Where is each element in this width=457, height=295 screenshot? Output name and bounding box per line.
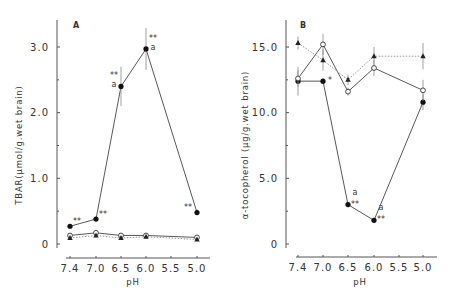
significance-letter: a xyxy=(112,80,117,89)
panel-b: 05.010.015.07.47.06.56.05.55.0pHα-tocoph… xyxy=(240,20,437,287)
x-axis-label: pH xyxy=(353,277,366,287)
series-open-circle xyxy=(68,230,200,239)
data-point xyxy=(371,218,376,223)
data-point xyxy=(420,53,425,58)
series-open-circle xyxy=(296,34,426,101)
y-tick-label: 0 xyxy=(271,239,278,250)
data-point xyxy=(143,46,148,51)
data-point xyxy=(345,202,350,207)
y-tick-label: 0 xyxy=(42,239,49,250)
significance-stars: ** xyxy=(110,71,118,80)
data-point xyxy=(67,224,72,229)
y-axis-label: α-tocopherol (μg/g.wet brain) xyxy=(240,71,250,219)
series-filled-circle: ******a**a** xyxy=(67,28,199,229)
x-tick-label: 7.4 xyxy=(289,262,308,273)
x-tick-label: 5.0 xyxy=(414,262,433,273)
series-line xyxy=(70,235,197,239)
data-point xyxy=(371,53,376,58)
series-line xyxy=(70,49,197,226)
data-point xyxy=(93,216,98,221)
x-tick-label: 7.4 xyxy=(61,263,80,274)
series-line xyxy=(298,43,423,80)
x-tick-label: 6.0 xyxy=(137,263,156,274)
panel-a: 01.02.03.07.47.06.56.05.55.0pHTBAR(μmol/… xyxy=(14,20,210,287)
data-point xyxy=(320,79,325,84)
data-point xyxy=(118,84,123,89)
x-tick-label: 5.0 xyxy=(188,263,207,274)
x-axis-label: pH xyxy=(126,277,139,287)
y-tick-label: 10.0 xyxy=(252,107,278,118)
significance-stars: ** xyxy=(149,34,157,43)
significance-letter: a xyxy=(151,43,156,52)
y-tick-label: 3.0 xyxy=(30,42,49,53)
data-point xyxy=(296,76,301,81)
data-point xyxy=(295,40,300,45)
data-point xyxy=(194,210,199,215)
data-point xyxy=(421,88,426,93)
data-point xyxy=(346,89,351,94)
significance-stars: * xyxy=(328,76,332,85)
data-point xyxy=(345,77,350,82)
x-tick-label: 7.0 xyxy=(314,262,333,273)
significance-stars: ** xyxy=(351,200,359,209)
data-point xyxy=(372,66,377,71)
series-filled-circle: ***a**a xyxy=(295,67,425,225)
y-tick-label: 15.0 xyxy=(252,42,278,53)
significance-stars: ** xyxy=(73,217,81,226)
x-tick-label: 5.5 xyxy=(390,262,409,273)
x-tick-label: 6.0 xyxy=(365,262,384,273)
y-axis-label: TBAR(μmol/g.wet brain) xyxy=(14,85,24,205)
significance-letter: a xyxy=(379,203,384,212)
significance-letter: a xyxy=(353,188,358,197)
y-tick-label: 2.0 xyxy=(30,107,49,118)
data-point xyxy=(320,57,325,62)
data-point xyxy=(321,42,326,47)
figure: 01.02.03.07.47.06.56.05.55.0pHTBAR(μmol/… xyxy=(0,0,457,295)
series-line xyxy=(70,233,197,238)
significance-stars: ** xyxy=(184,203,192,212)
panel-label: A xyxy=(73,21,80,30)
panel-label: B xyxy=(300,21,306,30)
x-tick-label: 5.5 xyxy=(162,263,181,274)
series-line xyxy=(298,81,423,220)
y-tick-label: 5.0 xyxy=(259,173,278,184)
x-tick-label: 6.5 xyxy=(339,262,358,273)
y-tick-label: 1.0 xyxy=(30,173,49,184)
series-filled-triangle xyxy=(295,36,425,85)
significance-stars: ** xyxy=(377,215,385,224)
x-tick-label: 6.5 xyxy=(112,263,131,274)
x-tick-label: 7.0 xyxy=(87,263,106,274)
significance-stars: ** xyxy=(99,210,107,219)
